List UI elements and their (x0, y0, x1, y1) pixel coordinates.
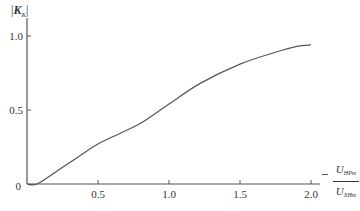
data-line (27, 45, 311, 185)
x-label-denominator: UXHm (333, 182, 359, 201)
x-tick-label: 0.5 (91, 188, 105, 200)
y-tick-label: 1.0 (9, 30, 23, 42)
x-tick-label: 1.5 (233, 188, 247, 200)
x-tick-label: 2.0 (304, 188, 318, 200)
y-axis-label: |KK| (11, 3, 29, 19)
axis-ticks: 0.51.01.52.00.51.00 (9, 30, 318, 200)
chart-plot: 0.51.01.52.00.51.00 (0, 0, 360, 211)
y-tick-label: 0.5 (9, 104, 23, 116)
x-label-dash (322, 174, 328, 175)
origin-label: 0 (16, 180, 22, 192)
x-tick-label: 1.0 (162, 188, 176, 200)
x-label-numerator: UHPm (333, 163, 359, 182)
x-axis-label: UHPm UXHm (333, 163, 359, 201)
